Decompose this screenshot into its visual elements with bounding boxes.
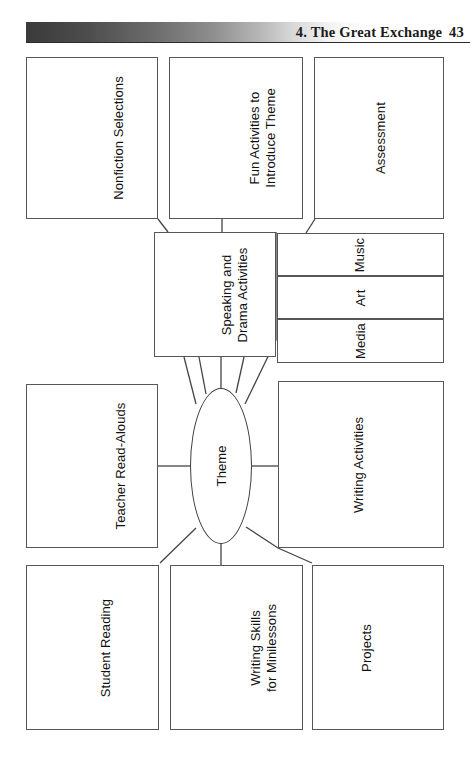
node-speaking-drama[interactable]: Speaking andDrama Activities: [154, 232, 276, 357]
node-assessment[interactable]: Assessment: [314, 57, 444, 219]
node-music[interactable]: Music: [277, 233, 444, 276]
node-label-nonfiction-selections: Nonfiction Selections: [111, 76, 127, 200]
node-label-speaking-drama: Speaking andDrama Activities: [219, 243, 251, 347]
node-teacher-read-alouds[interactable]: Teacher Read-Alouds: [26, 384, 158, 548]
node-label-art: Art: [353, 289, 369, 306]
node-art[interactable]: Art: [277, 276, 444, 319]
node-label-writing-activities: Writing Activities: [351, 416, 367, 512]
node-label-projects: Projects: [359, 624, 375, 672]
node-writing-activities[interactable]: Writing Activities: [278, 381, 444, 548]
connector-speaking-to-nonfiction: [158, 219, 168, 232]
node-label-music: Music: [353, 237, 369, 271]
node-nonfiction-selections[interactable]: Nonfiction Selections: [26, 57, 158, 219]
node-label-teacher-read-alouds: Teacher Read-Alouds: [113, 403, 129, 530]
node-fun-activities[interactable]: Fun Activities toIntroduce Theme: [169, 57, 303, 219]
node-media[interactable]: Media: [277, 319, 444, 363]
book-page: 4. The Great Exchange43: [0, 0, 470, 769]
node-label-fun-activities: Fun Activities toIntroduce Theme: [247, 83, 279, 193]
node-label-media: Media: [353, 323, 369, 359]
node-label-writing-skills: Writing Skillsfor Minilessons: [248, 593, 280, 703]
node-writing-skills[interactable]: Writing Skillsfor Minilessons: [170, 565, 303, 730]
connector-theme-to-speaking-d: [236, 357, 244, 393]
center-node-label: Theme: [213, 446, 229, 487]
connector-projects-jog: [278, 548, 312, 563]
connector-media-to-assessment: [306, 219, 315, 233]
theme-web-diagram: Nonfiction Selections Fun Activities toI…: [0, 0, 470, 769]
node-projects[interactable]: Projects: [312, 565, 444, 730]
center-node-theme[interactable]: Theme: [190, 388, 252, 544]
node-label-assessment: Assessment: [373, 102, 389, 174]
node-student-reading[interactable]: Student Reading: [26, 565, 159, 730]
node-label-student-reading: Student Reading: [98, 598, 114, 696]
